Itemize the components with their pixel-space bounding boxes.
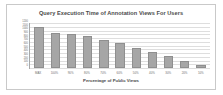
bar-slot <box>63 23 79 68</box>
gridline <box>30 68 210 69</box>
bar-slot <box>31 23 47 68</box>
bar[interactable] <box>34 27 43 68</box>
plot-area <box>29 23 210 69</box>
bar-slot <box>144 23 160 68</box>
bar-slot <box>177 23 193 68</box>
x-tick-label: 10% <box>193 70 209 78</box>
bar-slot <box>112 23 128 68</box>
bar-slot <box>161 23 177 68</box>
bar-slot <box>128 23 144 68</box>
bar-slot <box>47 23 63 68</box>
bar-series <box>30 23 210 68</box>
x-tick-label: 90% <box>63 70 79 78</box>
y-tick-label: 0 <box>27 65 28 68</box>
y-axis-tick-labels: 1200110010009008007006005004003002001000 <box>15 22 28 69</box>
x-tick-label: MAX <box>30 70 46 78</box>
y-axis-label: Time (ms) <box>0 23 1 53</box>
bar[interactable] <box>83 36 92 68</box>
bar[interactable] <box>115 43 124 68</box>
x-tick-label: 40% <box>144 70 160 78</box>
x-tick-label: 70% <box>95 70 111 78</box>
bar-slot <box>80 23 96 68</box>
x-tick-label: 30% <box>160 70 176 78</box>
bar-slot <box>96 23 112 68</box>
bar[interactable] <box>180 61 189 68</box>
bar[interactable] <box>164 56 173 68</box>
x-tick-label: 100% <box>46 70 62 78</box>
x-tick-label: 60% <box>111 70 127 78</box>
bar[interactable] <box>51 33 60 68</box>
chart-container: Query Execution Time of Annotation Views… <box>6 4 216 90</box>
bar[interactable] <box>196 65 205 68</box>
x-axis-label: Percentage of Public Views <box>7 78 215 83</box>
bar-slot <box>193 23 209 68</box>
x-tick-label: 20% <box>176 70 192 78</box>
chart-title: Query Execution Time of Annotation Views… <box>7 10 215 16</box>
bar[interactable] <box>148 52 157 68</box>
bar[interactable] <box>132 48 141 68</box>
bar[interactable] <box>67 34 76 69</box>
x-axis-tick-labels: MAX100%90%80%70%60%50%40%30%20%10% <box>29 70 210 78</box>
bar[interactable] <box>99 40 108 68</box>
x-tick-label: 80% <box>79 70 95 78</box>
x-tick-label: 50% <box>128 70 144 78</box>
